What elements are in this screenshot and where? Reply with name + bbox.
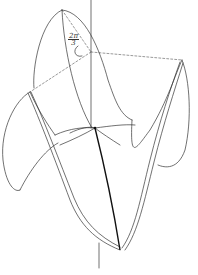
center-crossing-lower bbox=[60, 128, 95, 145]
back-lobe-left-edge bbox=[34, 10, 62, 88]
left-lobe-strip-b bbox=[31, 92, 120, 247]
origin-point bbox=[94, 127, 97, 130]
surface-drawing bbox=[0, 0, 198, 275]
left-lobe-outer bbox=[3, 92, 30, 191]
right-lobe-strip-b bbox=[125, 63, 183, 250]
bold-front-meridian bbox=[95, 128, 120, 250]
right-lobe-strip-a bbox=[122, 62, 180, 248]
angle-arc bbox=[75, 46, 82, 56]
back-lobe-right-edge bbox=[62, 10, 132, 120]
angle-denominator: 3 bbox=[68, 40, 79, 46]
left-lobe-lower bbox=[20, 143, 58, 190]
angle-label: 2π 3 bbox=[68, 33, 79, 46]
back-lobe-inner-curve bbox=[62, 10, 92, 128]
figure-canvas: 2π 3 bbox=[0, 0, 198, 275]
dashed-line-left bbox=[30, 52, 91, 92]
dashed-line-right bbox=[91, 52, 182, 60]
